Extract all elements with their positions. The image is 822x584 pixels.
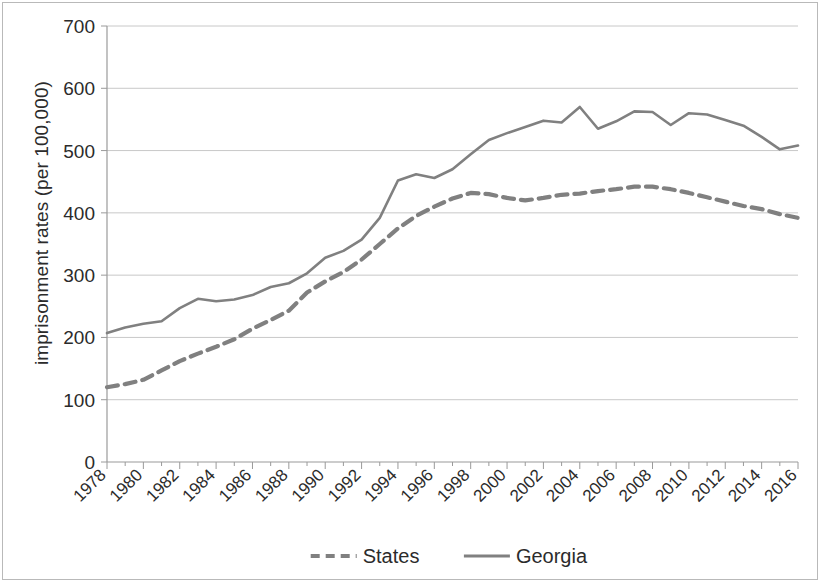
x-tick-label: 1978: [70, 465, 110, 505]
x-tick-label: 2000: [470, 465, 510, 505]
x-tick-label: 2014: [724, 465, 764, 505]
x-tick-label: 1980: [106, 465, 146, 505]
x-tick-label: 1986: [215, 465, 255, 505]
y-tick-label: 400: [63, 203, 95, 224]
legend-label-states: States: [363, 545, 420, 567]
x-axis-tick-marks: [107, 462, 798, 469]
chart-figure: imprisonment rates (per 100,000) 0100200…: [0, 0, 822, 584]
y-tick-label: 300: [63, 265, 95, 286]
x-tick-label: 2008: [615, 465, 655, 505]
axis-lines: [107, 26, 798, 462]
x-tick-label: 1984: [179, 465, 219, 505]
y-axis-tick-labels: 0100200300400500600700: [63, 16, 95, 473]
x-tick-label: 1982: [142, 465, 182, 505]
chart-legend: StatesGeorgia: [311, 545, 588, 567]
x-tick-label: 1992: [324, 465, 364, 505]
x-tick-label: 2004: [542, 465, 582, 505]
x-tick-label: 2016: [761, 465, 801, 505]
x-tick-label: 2012: [688, 465, 728, 505]
series-line-georgia: [107, 107, 798, 333]
x-tick-label: 1988: [251, 465, 291, 505]
x-tick-label: 1994: [361, 465, 401, 505]
x-tick-label: 1996: [397, 465, 437, 505]
series-line-states: [107, 187, 798, 388]
x-tick-label: 2002: [506, 465, 546, 505]
y-tick-label: 100: [63, 390, 95, 411]
x-tick-label: 2010: [652, 465, 692, 505]
y-tick-label: 200: [63, 327, 95, 348]
legend-label-georgia: Georgia: [516, 545, 588, 567]
x-tick-label: 1990: [288, 465, 328, 505]
y-tick-label: 600: [63, 78, 95, 99]
x-axis-tick-labels: 1978198019821984198619881990199219941996…: [70, 465, 801, 505]
y-tick-label: 700: [63, 16, 95, 37]
y-tick-label: 500: [63, 141, 95, 162]
data-series: [107, 107, 798, 387]
line-chart-plot: 0100200300400500600700 19781980198219841…: [0, 0, 822, 584]
x-tick-label: 1998: [433, 465, 473, 505]
x-tick-label: 2006: [579, 465, 619, 505]
gridlines: [101, 26, 798, 462]
